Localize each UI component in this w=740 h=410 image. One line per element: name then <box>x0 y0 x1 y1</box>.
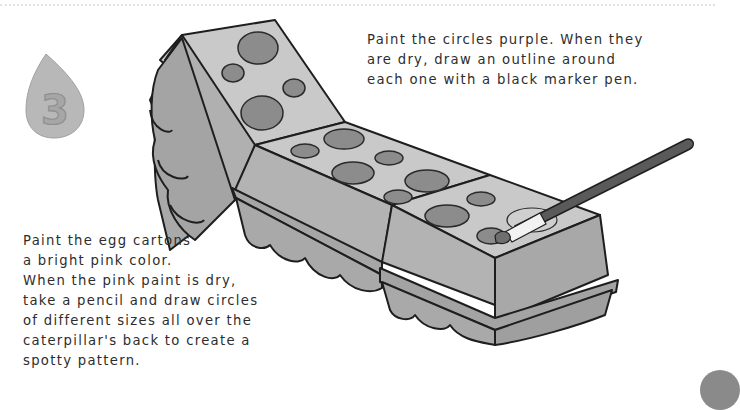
instruction-paint-circles: Paint the circles purple. When they are … <box>367 30 644 90</box>
page-corner-decoration <box>700 370 740 410</box>
instruction-paint-cartons: Paint the egg cartons a bright pink colo… <box>23 231 258 371</box>
